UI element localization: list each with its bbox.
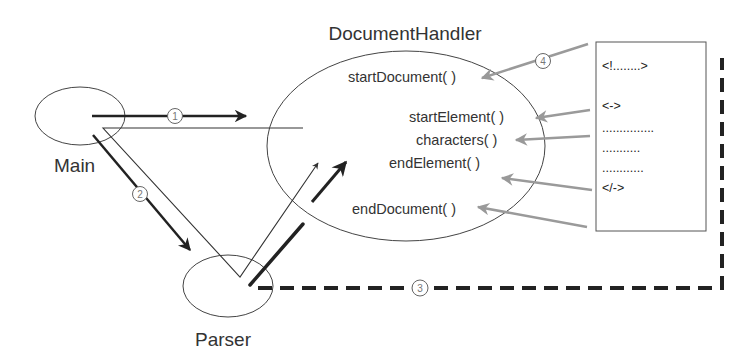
doc-line-start-tag: <-> (602, 99, 621, 113)
parser-label: Parser (195, 329, 252, 350)
event-arrow-end-document (478, 207, 587, 227)
step-3-number: 3 (417, 283, 423, 294)
event-arrow-start-element (536, 110, 590, 118)
step-2-number: 2 (137, 189, 143, 200)
xml-document-box[interactable]: <!........> <-> ............... ........… (596, 42, 706, 231)
method-characters: characters( ) (416, 132, 497, 148)
method-end-element: endElement( ) (389, 155, 480, 171)
step-2-arrow: 2 (93, 135, 190, 250)
event-arrow-characters (516, 136, 590, 140)
doc-line-text-1: ............... (602, 121, 654, 135)
method-start-document: startDocument( ) (348, 69, 456, 85)
parser-node[interactable]: Parser (183, 255, 273, 350)
step-1-number: 1 (172, 111, 178, 122)
step-4-number: 4 (540, 56, 546, 67)
event-arrow-end-element (502, 178, 592, 190)
step-1-arrow: 1 (92, 109, 246, 124)
doc-line-prolog: <!........> (602, 59, 648, 73)
doc-line-text-2: ........... (602, 141, 640, 155)
main-node[interactable]: Main (35, 87, 125, 176)
doc-line-end-tag: </-> (602, 181, 624, 195)
main-label: Main (54, 155, 95, 176)
method-end-document: endDocument( ) (352, 201, 456, 217)
handler-title: DocumentHandler (328, 23, 482, 44)
method-start-element: startElement( ) (409, 109, 504, 125)
doc-line-text-3: ............ (602, 161, 644, 175)
step-4-marker: 4 (536, 54, 551, 69)
parser-to-handler-arrow (250, 162, 346, 285)
reference-line (103, 128, 318, 277)
sax-event-diagram: DocumentHandler Main Parser 1 2 3 (0, 0, 734, 356)
